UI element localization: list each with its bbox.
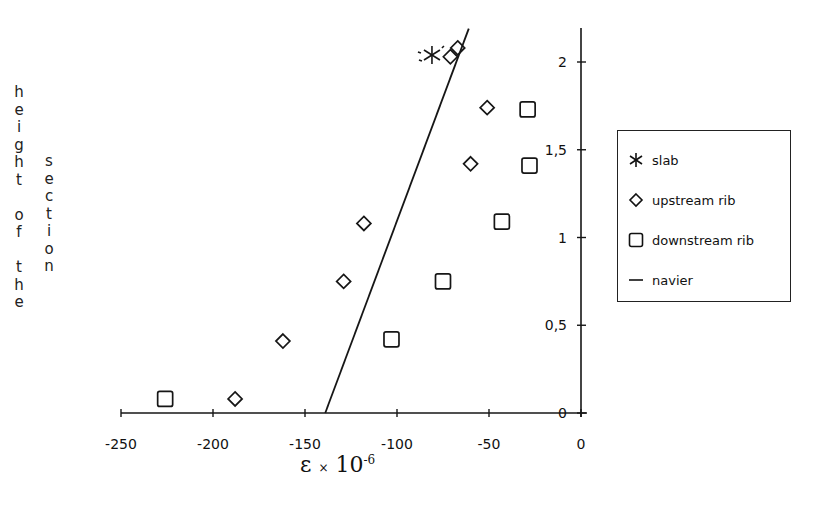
axes: -250-200-150-100-50000,511,52 xyxy=(105,28,587,452)
y-axis-title-col1: h e i g h t o f t h e xyxy=(12,84,26,312)
diamond-icon xyxy=(628,192,644,208)
times-symbol: × xyxy=(318,461,328,475)
x-tick-label: 0 xyxy=(577,436,586,452)
upstream-rib-point xyxy=(480,101,494,115)
x-tick-label: -150 xyxy=(289,436,321,452)
legend-label: upstream rib xyxy=(652,193,735,208)
x-axis-base: 10 xyxy=(335,452,363,477)
legend-label: navier xyxy=(652,273,693,288)
upstream-rib-point xyxy=(228,392,242,406)
y-tick-label: 0 xyxy=(558,405,567,421)
line-icon xyxy=(628,272,644,288)
upstream-rib-point xyxy=(357,216,371,230)
x-tick-label: -250 xyxy=(105,436,137,452)
y-tick-label: 0,5 xyxy=(545,317,567,333)
downstream-rib-point xyxy=(522,158,537,173)
data-points xyxy=(158,29,537,413)
downstream-rib-point xyxy=(436,274,451,289)
legend-item-slab: slab xyxy=(628,149,679,171)
y-tick-label: 2 xyxy=(558,54,567,70)
x-axis-exponent: -6 xyxy=(363,453,375,467)
upstream-rib-point xyxy=(464,157,478,171)
asterisk-icon xyxy=(628,152,644,168)
slab-point xyxy=(418,46,444,64)
y-axis-title-col2: s e c t i o n xyxy=(42,153,56,276)
downstream-rib-point xyxy=(520,102,535,117)
downstream-rib-point xyxy=(158,391,173,406)
x-tick-label: -100 xyxy=(381,436,413,452)
x-axis-title: ε × 10-6 xyxy=(300,452,375,477)
legend-item-upstream-rib: upstream rib xyxy=(628,189,735,211)
legend-label: slab xyxy=(652,153,679,168)
downstream-rib-point xyxy=(384,332,399,347)
epsilon-symbol: ε xyxy=(300,452,311,477)
y-tick-label: 1,5 xyxy=(545,142,567,158)
downstream-rib-point xyxy=(494,214,509,229)
upstream-rib-point xyxy=(276,334,290,348)
x-tick-label: -50 xyxy=(478,436,501,452)
upstream-rib-point xyxy=(337,274,351,288)
y-tick-label: 1 xyxy=(558,230,567,246)
navier-line xyxy=(325,29,469,413)
legend-label: downstream rib xyxy=(652,233,754,248)
legend-item-navier: navier xyxy=(628,269,693,291)
legend-item-downstream-rib: downstream rib xyxy=(628,229,754,251)
x-tick-label: -200 xyxy=(197,436,229,452)
square-icon xyxy=(628,232,644,248)
legend: slab upstream rib downstream rib navier xyxy=(617,130,791,302)
